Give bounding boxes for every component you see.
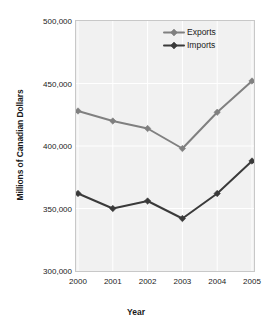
y-tick-label: 300,000 — [4, 267, 72, 276]
legend-item-exports[interactable]: Exports — [163, 26, 216, 39]
legend-label: Imports — [187, 40, 215, 51]
plot-canvas — [76, 21, 254, 271]
x-axis-title: Year — [0, 307, 272, 317]
plot-area — [75, 20, 255, 272]
y-tick-label: 450,000 — [4, 79, 72, 88]
y-tick-label: 400,000 — [4, 142, 72, 151]
legend-label: Exports — [187, 27, 216, 38]
y-tick-label: 350,000 — [4, 204, 72, 213]
chart-legend: ExportsImports — [163, 26, 216, 52]
legend-item-imports[interactable]: Imports — [163, 39, 216, 52]
x-tick-label: 2005 — [232, 277, 272, 286]
legend-marker-icon — [163, 27, 185, 38]
legend-marker-icon — [163, 40, 185, 51]
trade-line-chart: Millions of Canadian Dollars 300,000350,… — [0, 0, 272, 329]
y-tick-label: 500,000 — [4, 17, 72, 26]
